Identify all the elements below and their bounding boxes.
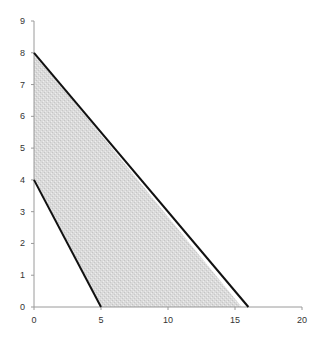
y-tick-label: 6: [20, 111, 25, 121]
y-tick-label: 3: [20, 207, 25, 217]
y-tick-label: 8: [20, 48, 25, 58]
y-tick-label: 0: [20, 302, 25, 312]
y-axis-ticks: 0123456789: [20, 16, 25, 312]
chart: 05101520 0123456789: [0, 0, 323, 342]
x-tick-label: 15: [230, 315, 240, 325]
y-tick-label: 2: [20, 238, 25, 248]
x-tick-label: 10: [163, 315, 173, 325]
y-tick-label: 9: [20, 16, 25, 26]
x-axis-ticks: 05101520: [31, 315, 307, 325]
x-tick-label: 5: [98, 315, 103, 325]
y-tick-label: 7: [20, 80, 25, 90]
y-tick-label: 4: [20, 175, 25, 185]
x-tick-label: 0: [31, 315, 36, 325]
x-tick-label: 20: [297, 315, 307, 325]
y-tick-label: 1: [20, 270, 25, 280]
y-tick-label: 5: [20, 143, 25, 153]
